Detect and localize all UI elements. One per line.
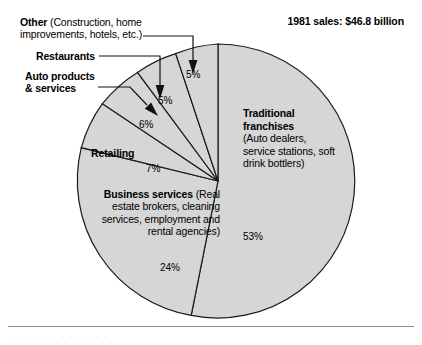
slice-percent-business-services: 24%	[160, 262, 180, 273]
callout-auto-line1: Auto products	[25, 70, 95, 82]
callout-auto-line2: & services	[25, 82, 76, 94]
callout-other: Other (Construction, home improvements, …	[20, 16, 190, 40]
slice-percent-traditional-franchises: 53%	[243, 231, 263, 242]
slice-label-business-services: Business services (Real estate brokers, …	[84, 188, 220, 238]
slice-label-traditional-detail: (Auto dealers, service stations, soft dr…	[243, 132, 335, 169]
slice-percent-other: 5%	[186, 69, 200, 80]
slice-label-traditional-franchises: Traditional franchises (Auto dealers, se…	[243, 107, 339, 170]
callout-other-bold: Other	[20, 16, 47, 28]
clipped-text-bottom: · · · · · · · · · · · ·	[10, 336, 414, 345]
callout-restaurants: Restaurants	[36, 50, 95, 62]
slice-label-business-head: Business services	[104, 188, 193, 200]
clipped-text-bottom-glyphs: · · · · · · · · · · · ·	[10, 336, 108, 341]
pie-chart-figure: · · · · · · · 1981 sales: $46.8 billion	[0, 0, 422, 345]
slice-percent-retailing: 7%	[146, 163, 160, 174]
slice-percent-auto-products: 6%	[139, 119, 153, 130]
slice-percent-restaurants: 5%	[158, 95, 172, 106]
slice-label-traditional-head1: Traditional	[243, 107, 339, 120]
callout-restaurants-label: Restaurants	[36, 50, 95, 62]
footer-divider	[8, 326, 414, 327]
callout-auto-products: Auto products & services	[25, 70, 135, 94]
slice-label-traditional-head2: franchises	[243, 120, 339, 133]
slice-label-retailing: Retailing	[91, 147, 134, 159]
